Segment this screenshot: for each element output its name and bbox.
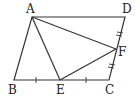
double-tick-fc-1 — [109, 64, 115, 65]
label-b: B — [8, 83, 17, 97]
double-tick-df-1 — [117, 32, 123, 33]
geometry-diagram: A D F B E C — [0, 0, 140, 97]
double-tick-df-2 — [116, 35, 122, 36]
label-e: E — [56, 83, 65, 97]
label-d: D — [122, 2, 132, 16]
parallelogram-abcd — [14, 17, 125, 80]
segment-ef — [60, 49, 116, 80]
label-a: A — [25, 2, 35, 16]
label-c: C — [105, 83, 114, 97]
label-f: F — [118, 45, 126, 59]
double-tick-fc-2 — [108, 67, 114, 68]
